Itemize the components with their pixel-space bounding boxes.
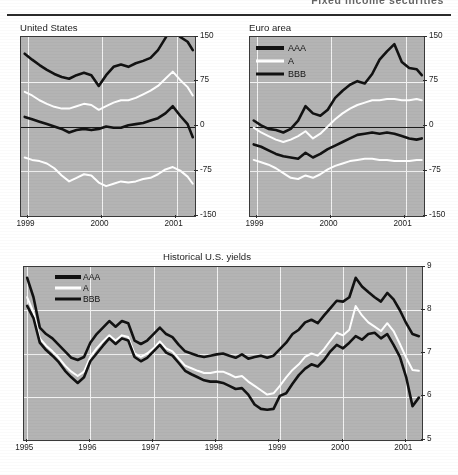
x-axis-tick-label: 2001 bbox=[165, 219, 183, 228]
legend-swatch-bbb bbox=[256, 72, 284, 75]
header-rule bbox=[7, 14, 451, 16]
series-line bbox=[25, 158, 193, 187]
euro-panel-title: Euro area bbox=[249, 22, 291, 33]
series-line bbox=[25, 106, 193, 137]
series-line bbox=[27, 306, 419, 410]
x-axis-tick-label: 2000 bbox=[90, 219, 108, 228]
series-line bbox=[27, 297, 419, 394]
y-tickmark bbox=[423, 170, 427, 171]
y-axis-tick-label: 150 bbox=[429, 31, 443, 40]
x-tickmark bbox=[152, 439, 153, 442]
series-line bbox=[254, 132, 422, 158]
x-axis-tick-label: 1996 bbox=[78, 443, 96, 452]
x-tickmark bbox=[330, 215, 331, 218]
series-line bbox=[25, 72, 193, 110]
us-panel-title: United States bbox=[20, 22, 78, 33]
legend-swatch-bbb bbox=[55, 297, 81, 300]
legend-item: AAA bbox=[256, 41, 328, 54]
legend-swatch-a bbox=[55, 286, 81, 289]
x-axis-tick-label: 1999 bbox=[245, 219, 263, 228]
x-axis-tick-label: 1998 bbox=[205, 443, 223, 452]
x-axis-tick-label: 2001 bbox=[394, 443, 412, 452]
legend-swatch-aaa bbox=[256, 46, 284, 50]
y-tickmark bbox=[421, 266, 425, 267]
x-tickmark bbox=[256, 215, 257, 218]
y-tickmark bbox=[421, 439, 425, 440]
legend-swatch-a bbox=[256, 59, 284, 62]
x-axis-tick-label: 2000 bbox=[331, 443, 349, 452]
y-tickmark bbox=[423, 125, 427, 126]
y-tickmark bbox=[423, 215, 427, 216]
x-axis-tick-label: 1995 bbox=[15, 443, 33, 452]
y-axis-tick-label: 75 bbox=[429, 75, 438, 84]
x-tickmark bbox=[404, 215, 405, 218]
x-tickmark bbox=[215, 439, 216, 442]
y-tickmark bbox=[194, 215, 198, 216]
x-tickmark bbox=[101, 215, 102, 218]
y-tickmark bbox=[194, 125, 198, 126]
x-axis-tick-label: 1997 bbox=[142, 443, 160, 452]
x-tickmark bbox=[278, 439, 279, 442]
y-tickmark bbox=[423, 80, 427, 81]
y-axis-tick-label: -75 bbox=[200, 165, 212, 174]
y-axis-tick-label: 6 bbox=[427, 390, 432, 399]
legend-item: BBB bbox=[256, 67, 328, 80]
legend-label: A bbox=[83, 283, 89, 293]
legend-label: BBB bbox=[288, 69, 306, 79]
y-tickmark bbox=[423, 36, 427, 37]
legend-swatch-aaa bbox=[55, 275, 81, 279]
series-line bbox=[254, 159, 422, 179]
y-axis-tick-label: 150 bbox=[200, 31, 214, 40]
y-axis-tick-label: -150 bbox=[200, 210, 216, 219]
x-axis-tick-label: 1999 bbox=[16, 219, 34, 228]
x-tickmark bbox=[342, 439, 343, 442]
y-tickmark bbox=[194, 170, 198, 171]
y-axis-tick-label: 0 bbox=[429, 120, 434, 129]
x-tickmark bbox=[26, 439, 27, 442]
x-axis-tick-label: 2001 bbox=[394, 219, 412, 228]
legend-label: AAA bbox=[288, 43, 306, 53]
legend-item: BBB bbox=[55, 293, 125, 304]
x-tickmark bbox=[27, 215, 28, 218]
y-axis-tick-label: 0 bbox=[200, 120, 205, 129]
x-tickmark bbox=[89, 439, 90, 442]
y-axis-tick-label: 75 bbox=[200, 75, 209, 84]
y-tickmark bbox=[194, 36, 198, 37]
x-axis-tick-label: 2000 bbox=[319, 219, 337, 228]
legend-item: AAA bbox=[55, 271, 125, 282]
x-tickmark bbox=[405, 439, 406, 442]
x-tickmark bbox=[175, 215, 176, 218]
legend-item: A bbox=[55, 282, 125, 293]
y-axis-tick-label: -75 bbox=[429, 165, 441, 174]
series-line bbox=[25, 37, 193, 86]
y-tickmark bbox=[421, 352, 425, 353]
y-tickmark bbox=[421, 309, 425, 310]
figure-page: Fixed income securities United States 15… bbox=[0, 0, 458, 475]
legend-label: AAA bbox=[83, 272, 100, 282]
series-layer bbox=[21, 37, 195, 216]
y-axis-tick-label: -150 bbox=[429, 210, 445, 219]
us-spreads-plot bbox=[20, 36, 196, 217]
hist-panel-title: Historical U.S. yields bbox=[163, 251, 251, 262]
legend-label: BBB bbox=[83, 294, 100, 304]
page-header-title: Fixed income securities bbox=[311, 0, 444, 6]
euro-legend: AAAABBB bbox=[256, 41, 328, 80]
x-axis-tick-label: 1999 bbox=[268, 443, 286, 452]
legend-label: A bbox=[288, 56, 294, 66]
y-tickmark bbox=[421, 395, 425, 396]
y-axis-tick-label: 7 bbox=[427, 347, 432, 356]
y-tickmark bbox=[194, 80, 198, 81]
hist-legend: AAAABBB bbox=[55, 271, 125, 304]
legend-item: A bbox=[256, 54, 328, 67]
y-axis-tick-label: 5 bbox=[427, 434, 432, 443]
y-axis-tick-label: 9 bbox=[427, 261, 432, 270]
y-axis-tick-label: 8 bbox=[427, 304, 432, 313]
